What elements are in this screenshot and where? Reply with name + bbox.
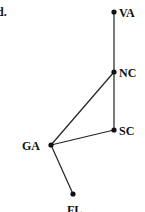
edge-nc-ga	[51, 72, 114, 145]
node-va	[111, 9, 116, 14]
edges	[51, 12, 114, 194]
part-label: d.	[0, 5, 7, 19]
node-label-sc: SC	[119, 124, 134, 138]
graph-diagram: d. VANCSCGAFL	[0, 0, 145, 212]
node-sc	[111, 127, 116, 132]
node-label-va: VA	[119, 6, 135, 20]
nodes: VANCSCGAFL	[22, 6, 136, 212]
edge-sc-ga	[51, 130, 114, 145]
node-label-fl: FL	[67, 203, 82, 212]
node-label-ga: GA	[22, 139, 40, 153]
node-label-nc: NC	[119, 66, 136, 80]
edge-ga-fl	[51, 145, 73, 194]
node-fl	[70, 191, 75, 196]
node-nc	[111, 69, 116, 74]
node-ga	[48, 142, 53, 147]
